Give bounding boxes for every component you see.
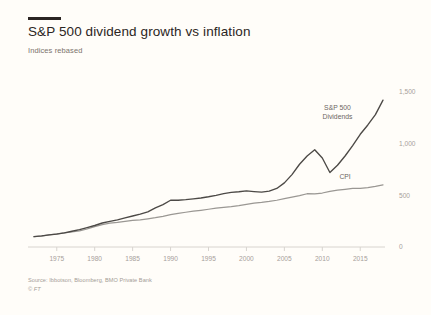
x-tick-label: 2000 [239,255,254,262]
y-tick-label: 1,500 [399,88,416,95]
x-tick-label: 1980 [87,255,102,262]
series-label-dividends-line2: Dividends [323,113,353,120]
x-tick-label: 1995 [201,255,216,262]
series-label-cpi: CPI [339,173,350,180]
plot-area: 05001,0001,500 1975198019851990199520002… [0,0,431,315]
series-line-cpi [34,185,383,237]
series-line-dividends [34,100,383,237]
x-axis-tick-labels: 197519801985199019952000200520102015 [49,247,367,262]
source-note: Source: Ibbotson, Bloomberg, BMO Private… [28,277,152,283]
series-label-dividends: S&P 500 [324,104,351,111]
x-tick-label: 1985 [125,255,140,262]
x-tick-label: 2010 [315,255,330,262]
y-axis-tick-labels: 05001,0001,500 [399,88,416,250]
x-tick-label: 1975 [49,255,64,262]
x-tick-label: 2005 [277,255,292,262]
y-tick-label: 500 [399,192,410,199]
y-tick-label: 1,000 [399,140,416,147]
y-tick-label: 0 [399,243,403,250]
x-tick-label: 2015 [353,255,368,262]
line-chart: 05001,0001,500 1975198019851990199520002… [0,0,431,315]
chart-figure: S&P 500 dividend growth vs inflation Ind… [0,0,431,315]
x-tick-label: 1990 [163,255,178,262]
credit-note: © FT [28,286,41,292]
